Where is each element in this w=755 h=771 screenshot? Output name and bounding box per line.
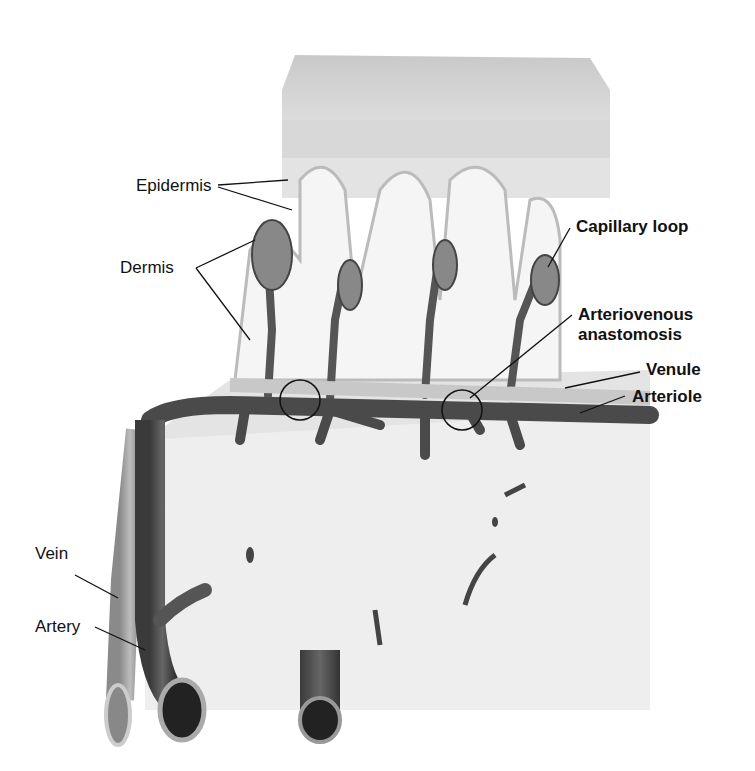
label-av-anastomosis-line1: Arteriovenous — [578, 305, 693, 325]
label-venule: Venule — [646, 360, 701, 380]
label-artery: Artery — [35, 617, 80, 637]
label-capillary-loop: Capillary loop — [576, 217, 688, 237]
label-vein: Vein — [35, 544, 68, 564]
label-av-anastomosis-line2: anastomosis — [578, 325, 682, 345]
label-dermis: Dermis — [120, 258, 174, 278]
label-epidermis: Epidermis — [136, 176, 212, 196]
label-arteriole: Arteriole — [632, 387, 702, 407]
skin-vasculature-illustration — [0, 0, 755, 771]
